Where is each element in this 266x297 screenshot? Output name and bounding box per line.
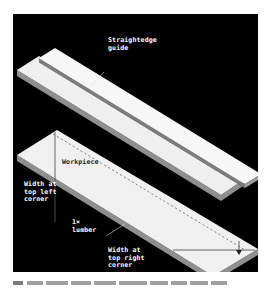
label-lumber: 1× lumber: [72, 219, 96, 234]
figure-caption: [13, 279, 258, 289]
label-width-top-right: Width at top right corner: [108, 247, 145, 270]
label-straightedge-guide: Straightedge guide: [108, 37, 157, 52]
diagram-panel: Straightedge guide Workpiece Width at to…: [13, 14, 258, 272]
caption-text-blurred: [13, 279, 258, 287]
label-workpiece: Workpiece: [62, 159, 99, 167]
label-width-top-left: Width at top left corner: [24, 181, 57, 204]
lumber-leader-line: [106, 224, 125, 236]
diagram-illustration: [13, 14, 258, 272]
